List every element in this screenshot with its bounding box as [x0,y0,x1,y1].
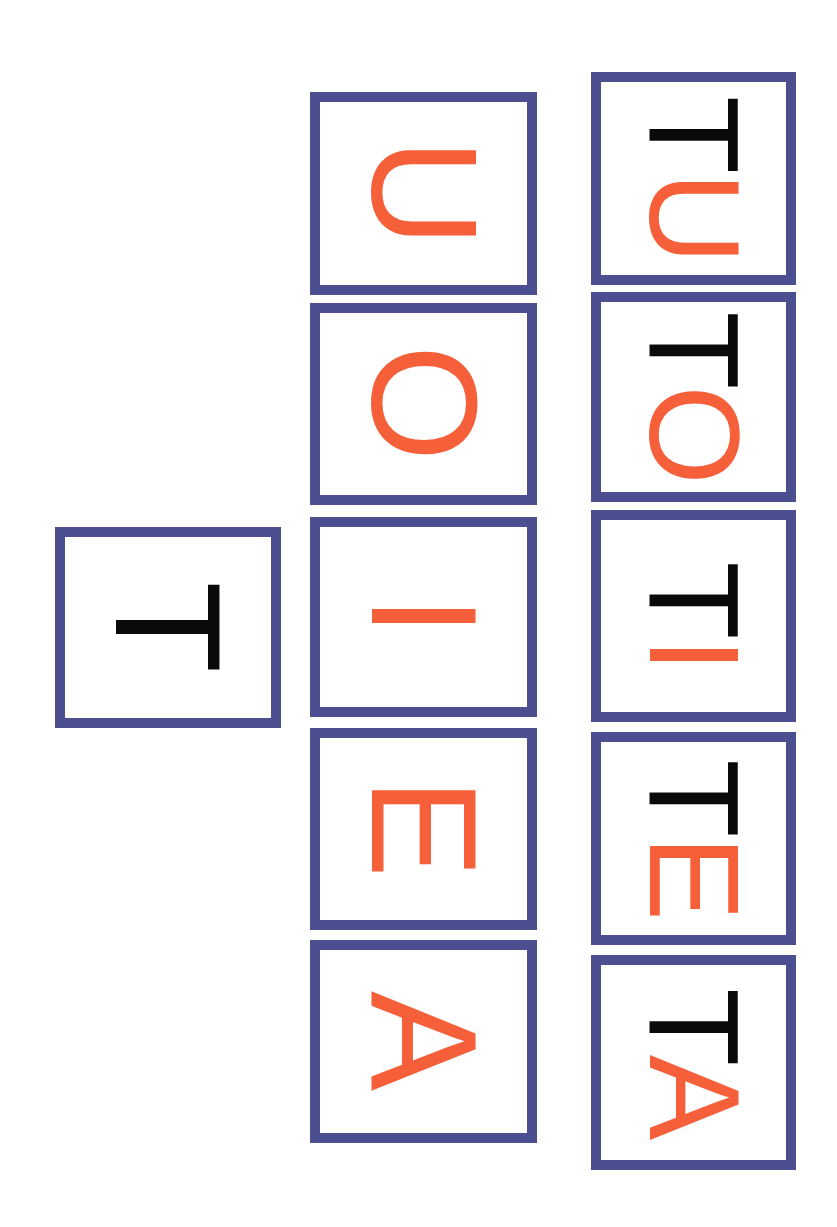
syllable-vowel: O [623,385,766,483]
syllable-vowel: U [623,171,766,261]
syllable-card-ta: TA [591,955,796,1170]
vowel-card-e: E [310,728,537,930]
vowel-letter: A [340,990,508,1092]
syllable-vowel: I [623,637,766,671]
syllable-card-te: TE [591,732,796,945]
vowel-letter: I [340,595,508,639]
vowel-letter: U [340,138,508,248]
syllable-consonant: T [623,987,766,1054]
syllable-vowel: E [623,835,766,918]
syllable-consonant: T [623,95,766,171]
syllable-consonant: T [623,561,766,637]
vowel-card-a: A [310,940,537,1143]
syllable-vowel: A [623,1054,766,1137]
consonant-card-t: T [55,527,281,728]
consonant-letter: T [84,581,252,675]
syllable-card-ti: TI [591,510,796,722]
syllable-consonant: T [623,311,766,385]
vowel-card-u: U [310,92,537,295]
vowel-card-i: I [310,517,537,717]
vowel-letter: E [340,778,508,880]
syllable-card-tu: TU [591,72,796,285]
syllable-consonant: T [623,759,766,835]
vowel-letter: O [340,345,508,464]
syllable-card-to: TO [591,292,796,502]
vowel-card-o: O [310,303,537,505]
